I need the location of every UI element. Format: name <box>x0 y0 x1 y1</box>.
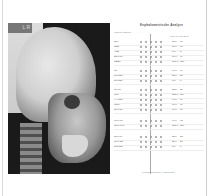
row-label: SN-Pog <box>114 55 122 58</box>
scale-mark <box>145 46 147 48</box>
row-label: ANB <box>114 50 119 53</box>
row-norm: 22.0 <box>172 135 177 138</box>
scale-mark <box>150 146 152 148</box>
scale-mark <box>140 120 142 122</box>
scale-mark <box>140 146 142 148</box>
scale-mark <box>155 75 157 77</box>
column-headers: Norm Ist Abw. Bem. <box>170 35 189 37</box>
scale-mark <box>160 41 162 43</box>
row-value: 92 <box>180 119 183 122</box>
row-value: 79 <box>180 103 183 106</box>
row-value: 67 <box>180 69 183 72</box>
scale-mark <box>140 51 142 53</box>
row-scale <box>136 60 166 64</box>
row-scale <box>136 88 166 92</box>
row-value: 128 <box>180 124 184 127</box>
scale-mark <box>145 94 147 96</box>
row-label: NSBa <box>114 60 120 63</box>
scale-mark <box>155 141 157 143</box>
scale-mark <box>150 75 152 77</box>
scale-mark <box>150 89 152 91</box>
row-norm: 80.0 <box>172 103 177 106</box>
row-value: 25 <box>180 88 183 91</box>
row-norm: 90.0 <box>172 119 177 122</box>
row-norm: 25.0 <box>172 140 177 143</box>
scale-mark <box>145 75 147 77</box>
scale-mark <box>145 104 147 106</box>
row-norm: 81.0 <box>172 55 177 58</box>
scale-mark <box>155 80 157 82</box>
scale-mark <box>155 120 157 122</box>
scale-mark <box>160 94 162 96</box>
row-scale <box>136 145 166 149</box>
row-scale <box>136 103 166 107</box>
scale-mark <box>140 56 142 58</box>
scale-mark <box>155 136 157 138</box>
scale-mark <box>155 125 157 127</box>
scale-mark <box>155 56 157 58</box>
row-scale <box>136 74 166 78</box>
scale-mark <box>155 104 157 106</box>
xray-spine <box>20 123 42 174</box>
row-scale <box>136 79 166 83</box>
row-label: UK1-ML <box>114 119 123 122</box>
scale-mark <box>150 136 152 138</box>
scale-mark <box>150 141 152 143</box>
row-norm: 131.0 <box>172 60 178 63</box>
row-label: OK1-UK1 <box>114 124 124 127</box>
scale-mark <box>140 80 142 82</box>
scale-mark <box>160 51 162 53</box>
sheet-title: Kephalometrische Analyse <box>140 23 183 27</box>
row-value: 130 <box>180 60 184 63</box>
scale-mark <box>160 125 162 127</box>
scale-mark <box>150 104 152 106</box>
scale-mark <box>145 120 147 122</box>
row-label: SNB <box>114 45 119 48</box>
scale-mark <box>155 94 157 96</box>
scale-mark <box>140 94 142 96</box>
row-value: 8 <box>180 79 181 82</box>
row-scale <box>136 69 166 73</box>
row-scale <box>136 124 166 128</box>
scale-mark <box>155 70 157 72</box>
scale-mark <box>150 125 152 127</box>
row-value: 66 <box>180 98 183 101</box>
row-scale <box>136 98 166 102</box>
row-norm: 131.0 <box>172 124 178 127</box>
scale-mark <box>145 109 147 111</box>
row-label: Y-Achse <box>114 98 123 101</box>
scale-mark <box>145 99 147 101</box>
row-label: SNA <box>114 40 119 43</box>
scale-mark <box>155 99 157 101</box>
scale-mark <box>150 41 152 43</box>
scale-mark <box>150 56 152 58</box>
scale-mark <box>155 41 157 43</box>
row-value: 71 <box>180 108 183 111</box>
scale-mark <box>160 46 162 48</box>
scale-mark <box>155 46 157 48</box>
row-value: 33 <box>180 74 183 77</box>
scale-mark <box>150 51 152 53</box>
row-scale <box>136 55 166 59</box>
scale-mark <box>160 61 162 63</box>
scale-mark <box>140 104 142 106</box>
row-scale <box>136 135 166 139</box>
table-row: Pog-NB2.01 <box>114 145 204 151</box>
scale-mark <box>155 109 157 111</box>
analysis-sheet: Kephalometrische Analyse Patient: Datum:… <box>112 20 206 178</box>
row-label: Gn <box>114 69 117 72</box>
scale-mark <box>160 56 162 58</box>
scale-mark <box>150 70 152 72</box>
scale-mark <box>140 89 142 91</box>
scale-mark <box>160 136 162 138</box>
scale-mark <box>145 89 147 91</box>
scale-mark <box>145 51 147 53</box>
scale-mark <box>160 120 162 122</box>
xray-orbit <box>64 95 80 109</box>
scale-mark <box>145 141 147 143</box>
scale-mark <box>150 120 152 122</box>
scale-mark <box>145 70 147 72</box>
row-label: NL-NSL <box>114 79 123 82</box>
row-scale <box>136 108 166 112</box>
scale-mark <box>155 89 157 91</box>
